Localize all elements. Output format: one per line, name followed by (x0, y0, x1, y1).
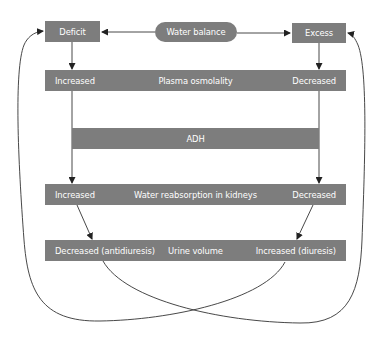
plasma-osmolality-increased: Increased (55, 76, 95, 86)
plasma-osmolality-bar: Plasma osmolality Increased Decreased (45, 70, 346, 91)
plasma-osmolality-decreased: Decreased (292, 76, 336, 86)
excess-box: Excess (292, 23, 346, 43)
urine-volume-increased: Increased (diuresis) (256, 246, 336, 256)
deficit-box: Deficit (45, 21, 100, 42)
arrow-reabs-decreased-down (297, 205, 313, 239)
water-balance-label: Water balance (166, 27, 225, 37)
connector-lines (0, 0, 392, 338)
water-reabsorption-decreased: Decreased (292, 190, 336, 200)
deficit-label: Deficit (59, 27, 85, 37)
arrow-reabs-increased-down (77, 205, 92, 239)
water-reabsorption-increased: Increased (55, 190, 95, 200)
urine-volume-bar: Urine volume Decreased (antidiuresis) In… (45, 240, 346, 261)
water-reabsorption-bar: Water reabsorption in kidneys Increased … (45, 184, 346, 205)
water-balance-pill: Water balance (155, 22, 237, 42)
adh-label: ADH (186, 134, 204, 144)
urine-volume-decreased: Decreased (antidiuresis) (55, 246, 155, 256)
adh-bar: ADH (72, 128, 319, 149)
excess-label: Excess (305, 28, 333, 38)
